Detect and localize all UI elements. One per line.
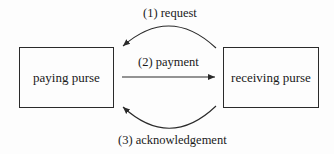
request-arrow: [123, 26, 216, 48]
receiving-purse-label: receiving purse: [231, 70, 311, 86]
payment-protocol-diagram: paying purse receiving purse (1) request…: [0, 0, 334, 154]
request-label: (1) request: [143, 6, 197, 21]
acknowledgement-label: (3) acknowledgement: [118, 133, 227, 148]
payment-label: (2) payment: [138, 55, 199, 70]
paying-purse-label: paying purse: [33, 70, 100, 86]
receiving-purse-node: receiving purse: [223, 47, 319, 108]
acknowledgement-arrow: [123, 106, 216, 128]
paying-purse-node: paying purse: [19, 47, 114, 108]
